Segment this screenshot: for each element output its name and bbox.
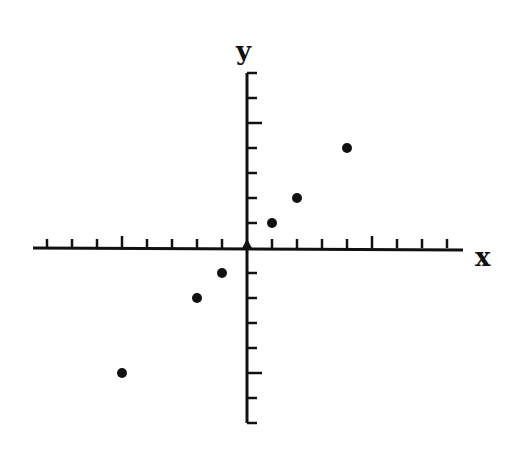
x-axis-label: x	[475, 242, 491, 272]
data-point	[342, 143, 352, 153]
data-points	[117, 143, 352, 378]
data-point	[192, 293, 202, 303]
data-point	[117, 368, 127, 378]
scatter-plot: x y	[0, 0, 513, 454]
origin-point	[241, 239, 253, 250]
y-axis-label: y	[235, 36, 252, 66]
data-point	[292, 193, 302, 203]
data-point	[217, 268, 227, 278]
data-point	[267, 218, 277, 228]
